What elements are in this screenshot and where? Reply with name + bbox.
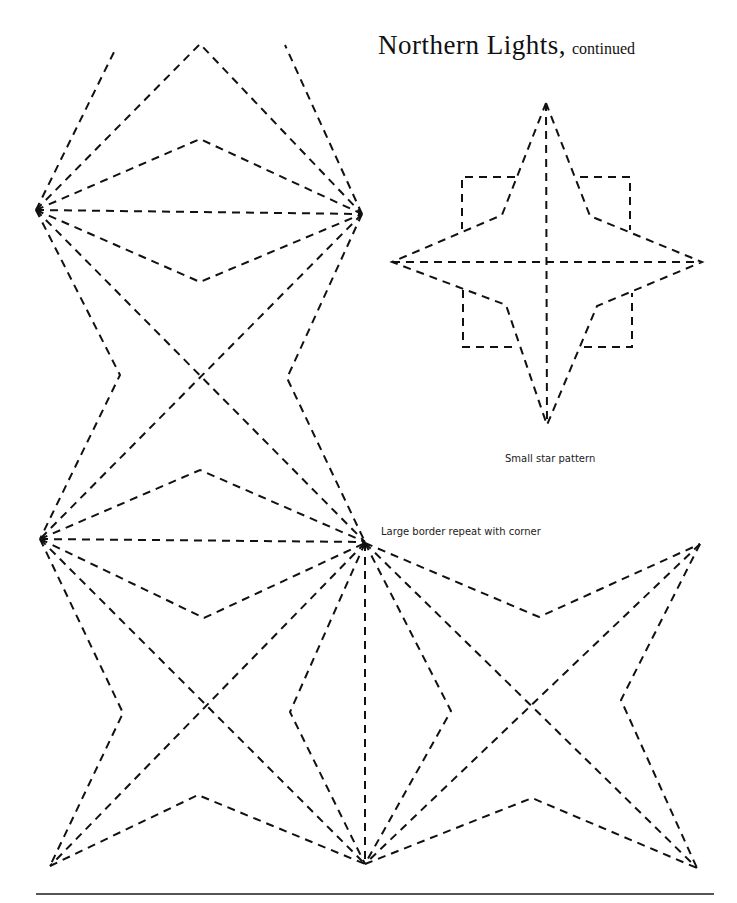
pattern-artwork [0,0,737,903]
small-star-caption: Small star pattern [505,453,595,464]
bottom-rule-divider [36,893,714,895]
large-border-caption: Large border repeat with corner [381,526,541,537]
small-star-pattern [392,103,702,425]
large-border-pattern [36,44,700,868]
